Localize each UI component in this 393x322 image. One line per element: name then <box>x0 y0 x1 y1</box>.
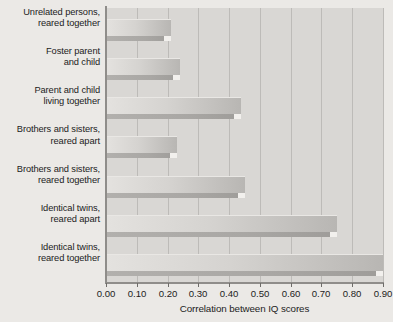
x-axis-tick-label: 0.80 <box>335 288 369 299</box>
bar <box>106 254 383 276</box>
x-axis-tick-label: 0.60 <box>274 288 308 299</box>
y-axis-label-line: Brothers and sisters, <box>0 124 100 135</box>
y-axis-line <box>105 6 107 284</box>
y-axis-label-line: Identical twins, <box>0 203 100 214</box>
bar-end-highlight <box>164 36 171 41</box>
y-axis-label-line: reared together <box>0 253 100 264</box>
x-axis-tick-mark <box>229 283 230 287</box>
y-axis-label: Parent and childliving together <box>0 85 100 107</box>
x-axis-line <box>105 282 384 284</box>
y-axis-label: Identical twins,reared apart <box>0 203 100 225</box>
y-axis-label-line: reared together <box>0 18 100 29</box>
x-axis-tick-mark <box>198 283 199 287</box>
x-axis-tick-label: 0.40 <box>212 288 246 299</box>
bar-end-highlight <box>238 193 245 198</box>
x-axis-tick-mark <box>260 283 261 287</box>
x-axis-tick-mark <box>321 283 322 287</box>
bar-shadow <box>106 114 241 119</box>
bar-end-highlight <box>173 75 180 80</box>
y-axis-label: Unrelated persons,reared together <box>0 7 100 29</box>
plot-area <box>106 8 383 282</box>
y-axis-label: Brothers and sisters,reared together <box>0 164 100 186</box>
bar-shadow <box>106 75 180 80</box>
bar-chart: Unrelated persons,reared togetherFoster … <box>0 0 393 322</box>
gridline <box>260 8 261 282</box>
x-axis-tick-mark <box>106 283 107 287</box>
bar <box>106 97 241 119</box>
x-axis-tick-mark <box>383 283 384 287</box>
x-axis-tick-mark <box>137 283 138 287</box>
bar <box>106 215 337 237</box>
y-axis-label-line: and child <box>0 57 100 68</box>
x-axis-tick-mark <box>291 283 292 287</box>
gridline <box>383 8 384 282</box>
x-axis-tick-label: 0.50 <box>243 288 277 299</box>
bar <box>106 58 180 80</box>
bar-shadow <box>106 36 171 41</box>
y-axis-label-line: Brothers and sisters, <box>0 164 100 175</box>
y-axis-label-line: reared together <box>0 175 100 186</box>
y-axis-label: Identical twins,reared together <box>0 242 100 264</box>
y-axis-label-line: Foster parent <box>0 46 100 57</box>
x-axis-tick-label: 0.30 <box>181 288 215 299</box>
bar-body <box>106 176 245 194</box>
bar-body <box>106 97 241 115</box>
bar-body <box>106 19 171 37</box>
x-axis-tick-label: 0.00 <box>89 288 123 299</box>
y-axis-label: Foster parentand child <box>0 46 100 68</box>
bar-body <box>106 136 177 154</box>
x-axis-tick-label: 0.20 <box>151 288 185 299</box>
x-axis-tick-mark <box>168 283 169 287</box>
y-axis-label-line: reared apart <box>0 214 100 225</box>
y-axis-label-line: living together <box>0 96 100 107</box>
bar-shadow <box>106 153 177 158</box>
y-axis-label-line: Identical twins, <box>0 242 100 253</box>
y-axis-label-line: reared apart <box>0 136 100 147</box>
bar <box>106 136 177 158</box>
bar-end-highlight <box>330 232 337 237</box>
y-axis-category-labels: Unrelated persons,reared togetherFoster … <box>0 8 103 282</box>
gridline <box>229 8 230 282</box>
bar-body <box>106 215 337 233</box>
bar-end-highlight <box>170 153 177 158</box>
bar-end-highlight <box>376 271 383 276</box>
y-axis-label-line: Parent and child <box>0 85 100 96</box>
bar <box>106 176 245 198</box>
bar-shadow <box>106 271 383 276</box>
x-axis-title: Correlation between IQ scores <box>106 303 383 314</box>
gridline <box>321 8 322 282</box>
x-axis-tick-label: 0.90 <box>366 288 393 299</box>
bar-body <box>106 254 383 272</box>
y-axis-label: Brothers and sisters,reared apart <box>0 124 100 146</box>
x-axis-tick-mark <box>352 283 353 287</box>
gridline <box>352 8 353 282</box>
gridline <box>198 8 199 282</box>
x-axis-tick-label: 0.70 <box>304 288 338 299</box>
gridline <box>291 8 292 282</box>
y-axis-label-line: Unrelated persons, <box>0 7 100 18</box>
x-axis-tick-label: 0.10 <box>120 288 154 299</box>
bar-shadow <box>106 232 337 237</box>
bar-end-highlight <box>234 114 241 119</box>
bar-body <box>106 58 180 76</box>
bar-shadow <box>106 193 245 198</box>
bar <box>106 19 171 41</box>
